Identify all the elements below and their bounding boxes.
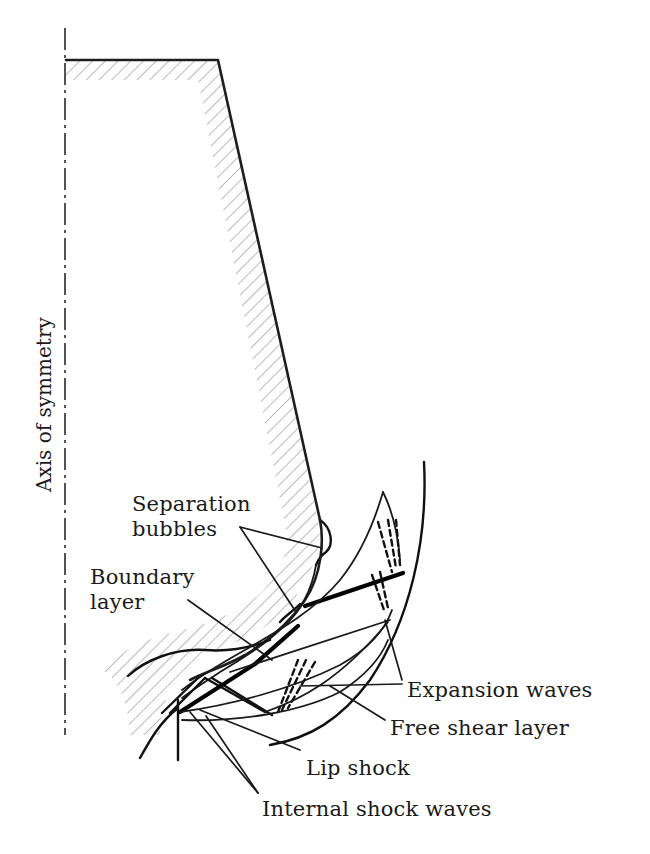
label-boundary-layer-line1: Boundary (90, 565, 195, 589)
leader-expansion-waves-2 (300, 684, 402, 686)
axis-of-symmetry-label: Axis of symmetry (32, 317, 56, 493)
label-expansion-waves: Expansion waves (407, 678, 593, 702)
label-separation-bubbles-line2: bubbles (132, 517, 217, 541)
label-separation-bubbles-line1: Separation (132, 492, 251, 516)
leader-internal-shock-1 (190, 712, 258, 793)
label-internal-shock-waves: Internal shock waves (262, 797, 492, 821)
label-boundary-layer-line2: layer (90, 590, 145, 614)
flow-diagram: Axis of symmetry Separation bubbles Boun… (0, 0, 650, 854)
label-free-shear-layer: Free shear layer (390, 716, 570, 740)
wall-hatching (66, 60, 319, 735)
leader-internal-shock-2 (206, 716, 258, 793)
label-lip-shock: Lip shock (306, 756, 410, 780)
